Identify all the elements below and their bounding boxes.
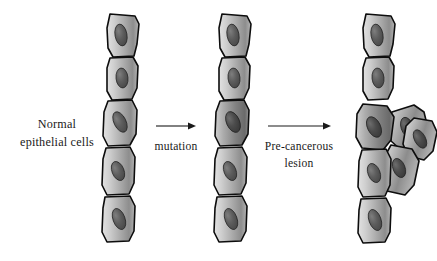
- lesion-label-line-1: Pre-cancerous: [265, 140, 334, 153]
- label-pre-cancerous-lesion: Pre-cancerous lesion: [265, 140, 334, 170]
- cell: [358, 149, 391, 197]
- cell: [103, 100, 137, 146]
- stage-pre-cancerous-lesion: [356, 14, 437, 243]
- cell: [107, 14, 139, 57]
- cell: [219, 14, 251, 57]
- cell: [358, 198, 391, 243]
- cell: [214, 147, 247, 195]
- normal-label-line-2: epithelial cells: [20, 135, 94, 149]
- cell: [363, 57, 394, 100]
- stage-normal-epithelium: [102, 14, 139, 242]
- mutation-arrow: [156, 123, 196, 130]
- cell-mutated: [215, 100, 249, 146]
- label-mutation: mutation: [155, 140, 198, 153]
- cell: [107, 57, 138, 100]
- lesion-label-line-2: lesion: [285, 157, 314, 170]
- cell: [214, 196, 247, 242]
- lesion-arrow: [268, 123, 331, 130]
- cell: [102, 196, 135, 242]
- cell: [102, 147, 135, 195]
- stage-mutated-epithelium: [214, 14, 251, 242]
- cell-proliferating: [356, 104, 394, 150]
- cell: [219, 57, 250, 100]
- cell-progression-diagram: Normal epithelial cells mutation Pre-can…: [0, 0, 437, 261]
- label-normal-epithelial-cells: Normal epithelial cells: [20, 117, 94, 149]
- normal-label-line-1: Normal: [38, 117, 77, 131]
- cell: [363, 14, 395, 57]
- diagram-canvas: Normal epithelial cells mutation Pre-can…: [0, 0, 437, 261]
